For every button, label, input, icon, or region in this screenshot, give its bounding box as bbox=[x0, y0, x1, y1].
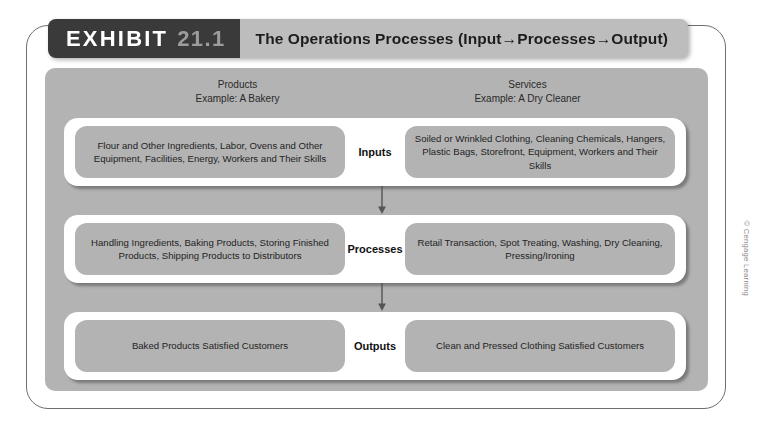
processes-products-box: Handling Ingredients, Baking Products, S… bbox=[75, 223, 345, 275]
processes-services-box: Retail Transaction, Spot Treating, Washi… bbox=[405, 223, 675, 275]
processes-services-text: Retail Transaction, Spot Treating, Washi… bbox=[413, 236, 667, 262]
stage-label-processes: Processes bbox=[345, 215, 405, 283]
column-header-products: Products Example: A Bakery bbox=[105, 78, 370, 105]
exhibit-title-plate: The Operations Processes (Input→Processe… bbox=[240, 19, 688, 58]
copyright-credit: © Cengage Learning bbox=[742, 220, 751, 296]
arrow-down-icon-processes-to-outputs bbox=[375, 283, 389, 312]
inputs-products-text: Flour and Other Ingredients, Labor, Oven… bbox=[83, 139, 337, 165]
exhibit-header: EXHIBIT 21.1 The Operations Processes (I… bbox=[48, 19, 688, 58]
column-headers: Products Example: A Bakery Services Exam… bbox=[45, 78, 708, 114]
stage-row-inputs: Flour and Other Ingredients, Labor, Oven… bbox=[64, 118, 686, 186]
stage-row-processes: Handling Ingredients, Baking Products, S… bbox=[64, 215, 686, 283]
arrow-down-icon-inputs-to-processes bbox=[375, 186, 389, 215]
column-name-products: Products bbox=[218, 79, 257, 90]
column-name-services: Services bbox=[508, 79, 546, 90]
column-header-services: Services Example: A Dry Cleaner bbox=[395, 78, 660, 105]
column-example-services: Example: A Dry Cleaner bbox=[395, 92, 660, 106]
processes-products-text: Handling Ingredients, Baking Products, S… bbox=[83, 236, 337, 262]
outputs-products-box: Baked Products Satisfied Customers bbox=[75, 320, 345, 372]
exhibit-title: The Operations Processes (Input→Processe… bbox=[256, 30, 668, 48]
exhibit-number: 21.1 bbox=[177, 26, 225, 52]
outputs-services-box: Clean and Pressed Clothing Satisfied Cus… bbox=[405, 320, 675, 372]
stage-row-outputs: Baked Products Satisfied Customers Outpu… bbox=[64, 312, 686, 380]
column-example-products: Example: A Bakery bbox=[105, 92, 370, 106]
inputs-products-box: Flour and Other Ingredients, Labor, Oven… bbox=[75, 126, 345, 178]
diagram-panel: Products Example: A Bakery Services Exam… bbox=[45, 68, 708, 391]
outputs-services-text: Clean and Pressed Clothing Satisfied Cus… bbox=[436, 339, 644, 352]
exhibit-badge: EXHIBIT 21.1 bbox=[48, 19, 240, 58]
inputs-services-box: Soiled or Wrinkled Clothing, Cleaning Ch… bbox=[405, 126, 675, 178]
stage-label-inputs: Inputs bbox=[345, 118, 405, 186]
outputs-products-text: Baked Products Satisfied Customers bbox=[132, 339, 288, 352]
inputs-services-text: Soiled or Wrinkled Clothing, Cleaning Ch… bbox=[413, 132, 667, 172]
exhibit-label: EXHIBIT bbox=[66, 26, 168, 52]
exhibit-figure: Products Example: A Bakery Services Exam… bbox=[0, 0, 763, 436]
stage-label-outputs: Outputs bbox=[345, 312, 405, 380]
